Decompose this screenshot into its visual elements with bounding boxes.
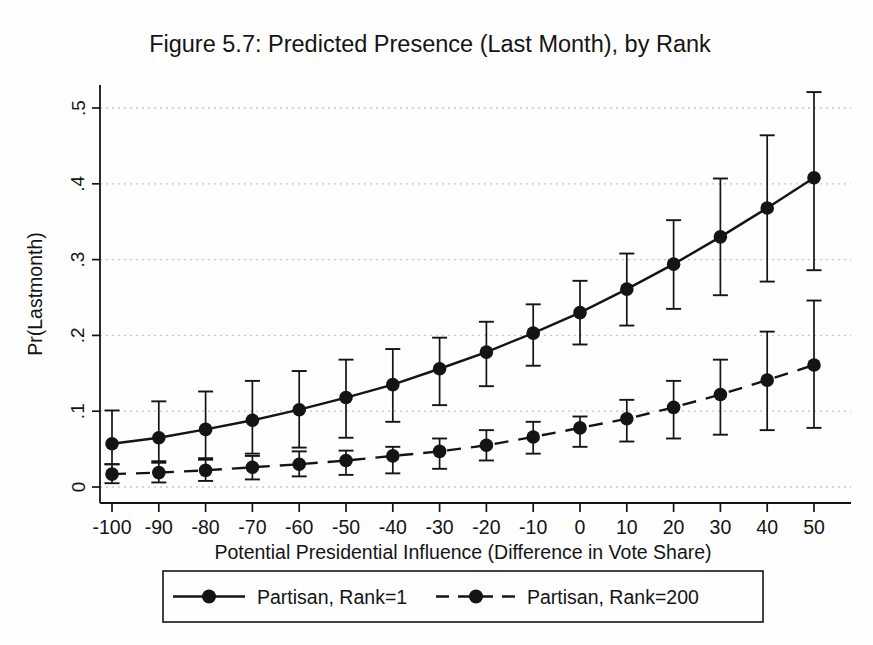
chart-title: Figure 5.7: Predicted Presence (Last Mon… xyxy=(149,31,711,57)
x-tick-label: -60 xyxy=(285,516,313,538)
y-tick-label: .1 xyxy=(68,403,89,419)
data-point-rank1 xyxy=(246,413,260,427)
legend-label-rank200: Partisan, Rank=200 xyxy=(527,586,699,608)
data-point-rank200 xyxy=(246,460,260,474)
x-tick-label: 0 xyxy=(575,516,586,538)
data-point-rank1 xyxy=(433,362,447,376)
x-tick-label: 10 xyxy=(616,516,638,538)
x-tick-label: -80 xyxy=(192,516,220,538)
legend-label-rank1: Partisan, Rank=1 xyxy=(257,586,407,608)
x-tick-label: -100 xyxy=(92,516,131,538)
y-tick-label: .5 xyxy=(68,100,89,116)
series-line-rank200 xyxy=(112,365,814,474)
x-tick-label: -10 xyxy=(519,516,547,538)
data-point-rank1 xyxy=(480,345,494,359)
data-point-rank200 xyxy=(760,373,774,387)
x-tick-label: 50 xyxy=(803,516,825,538)
data-point-rank1 xyxy=(152,431,166,445)
axes: 0.1.2.3.4.5-100-90-80-70-60-50-40-30-20-… xyxy=(68,85,852,538)
x-tick-label: 30 xyxy=(710,516,732,538)
data-point-rank200 xyxy=(433,445,447,459)
x-tick-label: -70 xyxy=(238,516,266,538)
y-axis-title: Pr(Lastmonth) xyxy=(24,232,46,356)
legend-marker-rank200-circle-icon xyxy=(469,590,483,604)
data-point-rank200 xyxy=(573,421,587,435)
data-point-rank1 xyxy=(807,171,821,185)
legend-marker-rank1-circle-icon xyxy=(202,590,216,604)
x-tick-label: 40 xyxy=(756,516,778,538)
x-tick-label: -50 xyxy=(332,516,360,538)
data-point-rank200 xyxy=(526,430,540,444)
data-point-rank200 xyxy=(667,401,681,415)
y-tick-label: .3 xyxy=(68,252,89,268)
x-tick-label: -40 xyxy=(379,516,407,538)
data-point-rank1 xyxy=(199,423,213,437)
legend: Partisan, Rank=1 Partisan, Rank=200 xyxy=(163,571,763,622)
data-point-rank1 xyxy=(667,257,681,271)
data-point-rank1 xyxy=(526,326,540,340)
data-point-rank1 xyxy=(620,282,634,296)
data-point-rank1 xyxy=(292,403,306,417)
data-point-rank1 xyxy=(339,391,353,405)
chart-canvas: Figure 5.7: Predicted Presence (Last Mon… xyxy=(0,0,873,645)
data-point-rank200 xyxy=(152,466,166,480)
data-point-rank1 xyxy=(386,378,400,392)
data-point-rank200 xyxy=(807,358,821,372)
series-lines xyxy=(112,178,814,474)
data-point-rank200 xyxy=(339,454,353,468)
error-bars xyxy=(105,92,822,483)
data-point-rank200 xyxy=(386,449,400,463)
y-tick-label: .4 xyxy=(68,175,89,191)
data-point-rank1 xyxy=(760,201,774,215)
data-point-rank200 xyxy=(714,388,728,402)
data-point-rank200 xyxy=(620,412,634,426)
data-point-rank1 xyxy=(573,306,587,320)
data-point-rank200 xyxy=(480,439,494,453)
gridlines xyxy=(100,108,851,487)
x-axis-title: Potential Presidential Influence (Differ… xyxy=(214,541,711,563)
series-line-rank1 xyxy=(112,178,814,444)
figure-page: Figure 5.7: Predicted Presence (Last Mon… xyxy=(0,0,873,645)
data-point-rank1 xyxy=(105,437,119,451)
data-point-rank200 xyxy=(105,467,119,481)
x-tick-label: -20 xyxy=(472,516,500,538)
data-point-rank200 xyxy=(292,457,306,471)
data-point-rank200 xyxy=(199,464,213,478)
x-tick-label: -90 xyxy=(145,516,173,538)
x-tick-label: -30 xyxy=(426,516,454,538)
y-tick-label: 0 xyxy=(68,482,89,493)
data-point-rank1 xyxy=(714,230,728,244)
x-tick-label: 20 xyxy=(663,516,685,538)
y-tick-label: .2 xyxy=(68,327,89,343)
